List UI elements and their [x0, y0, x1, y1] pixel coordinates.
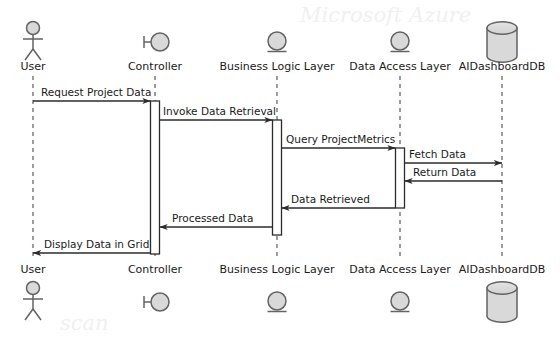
actor-leg-left [25, 309, 33, 320]
control-circle [151, 33, 169, 51]
message-6: Data Retrieved [282, 193, 396, 208]
message-label-4: Fetch Data [409, 148, 466, 160]
entity-circle-icon-top [391, 32, 410, 52]
entity-circle [268, 32, 286, 50]
watermark-artifacts: Microsoft Azure scan [60, 3, 471, 335]
activation-bar-dal [396, 148, 405, 208]
message-label-6: Data Retrieved [291, 193, 370, 205]
message-label-5: Return Data [413, 166, 476, 178]
actor-head [27, 282, 40, 295]
message-8: Display Data in Grid [33, 238, 151, 253]
svg-text:Microsoft Azure: Microsoft Azure [299, 3, 471, 27]
participant-label-top-db: AIDashboardDB [459, 60, 545, 73]
message-label-8: Display Data in Grid [44, 238, 149, 250]
entity-circle [268, 292, 286, 310]
svg-text:scan: scan [60, 311, 109, 335]
participant-label-bottom-db: AIDashboardDB [459, 263, 545, 276]
participant-label-bottom-dal: Data Access Layer [349, 263, 451, 276]
activation-bar-bll [273, 120, 282, 235]
messages-group: Request Project DataInvoke Data Retrieva… [33, 86, 502, 253]
message-label-2: Invoke Data Retrieval [163, 105, 276, 117]
activation-bar-controller [151, 101, 160, 254]
actor-head [27, 22, 40, 35]
db-top [487, 282, 517, 294]
entity-circle-icon-bottom [268, 292, 287, 312]
actor-leg-right [33, 309, 41, 320]
actor-leg-left [25, 49, 33, 60]
control-circle-icon-bottom [144, 293, 169, 311]
message-3: Query ProjectMetrics [282, 133, 396, 148]
participant-label-top-controller: Controller [128, 60, 183, 73]
message-label-1: Request Project Data [41, 86, 151, 98]
message-2: Invoke Data Retrieval [160, 105, 276, 120]
message-label-7: Processed Data [172, 212, 253, 224]
activations-group [151, 101, 405, 254]
actor-stick-figure-icon-top [23, 22, 43, 61]
control-circle-icon-top [144, 33, 169, 51]
db-top [487, 22, 517, 34]
message-4: Fetch Data [405, 148, 503, 163]
message-label-3: Query ProjectMetrics [286, 133, 395, 145]
participant-label-top-dal: Data Access Layer [349, 60, 451, 73]
message-1: Request Project Data [33, 86, 151, 101]
sequence-diagram-canvas: Microsoft Azure scan Request Project Dat… [0, 0, 560, 345]
header-icons-group [23, 22, 517, 63]
participant-label-bottom-user: User [20, 263, 46, 276]
actor-leg-right [33, 49, 41, 60]
actor-stick-figure-icon-bottom [23, 282, 43, 321]
participant-label-top-user: User [20, 60, 46, 73]
participant-label-bottom-bll: Business Logic Layer [220, 263, 335, 276]
entity-circle-icon-bottom [391, 292, 410, 312]
sequence-diagram: Microsoft Azure scan Request Project Dat… [0, 0, 560, 345]
database-cylinder-icon-bottom [487, 282, 517, 322]
entity-circle-icon-top [268, 32, 287, 52]
message-5: Return Data [405, 166, 503, 181]
participant-label-bottom-controller: Controller [128, 263, 183, 276]
entity-circle [391, 32, 409, 50]
participant-label-top-bll: Business Logic Layer [220, 60, 335, 73]
message-7: Processed Data [160, 212, 273, 227]
entity-circle [391, 292, 409, 310]
database-cylinder-icon-top [487, 22, 517, 62]
control-circle [151, 293, 169, 311]
